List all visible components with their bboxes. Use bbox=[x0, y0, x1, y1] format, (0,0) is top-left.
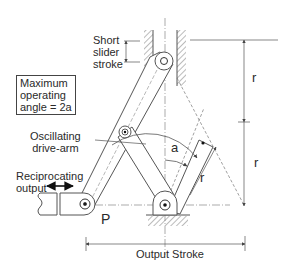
label-line: operating bbox=[20, 89, 72, 101]
r-arm-label: r bbox=[200, 170, 204, 185]
label-line: Short bbox=[93, 34, 123, 46]
r-bottom-label: r bbox=[254, 155, 258, 170]
drive-arm-label: Oscillating drive-arm bbox=[30, 130, 81, 154]
r-top-label: r bbox=[252, 70, 256, 85]
label-line: Oscillating bbox=[30, 130, 81, 142]
label-line: Maximum bbox=[20, 77, 72, 89]
slider-pivot bbox=[155, 52, 173, 70]
label-line: slider bbox=[93, 46, 123, 58]
output-stroke-label: Output Stroke bbox=[136, 248, 204, 260]
short-slider-stroke-label: Short slider stroke bbox=[93, 34, 123, 70]
arm-end-dot bbox=[201, 141, 204, 144]
short-stroke-dimension bbox=[124, 41, 140, 62]
label-line: angle = 2a bbox=[20, 101, 72, 113]
pivot-p-label: P bbox=[101, 211, 110, 227]
label-line: drive-arm bbox=[30, 142, 81, 154]
reciprocating-output-label: Reciprocating output bbox=[16, 170, 83, 194]
label-line: stroke bbox=[93, 58, 123, 70]
output-slider-block bbox=[38, 193, 95, 215]
angle-a-label: a bbox=[171, 140, 178, 155]
max-angle-box: Maximum operating angle = 2a bbox=[16, 75, 76, 115]
label-line: Reciprocating bbox=[16, 170, 83, 182]
label-line: output bbox=[16, 182, 83, 194]
